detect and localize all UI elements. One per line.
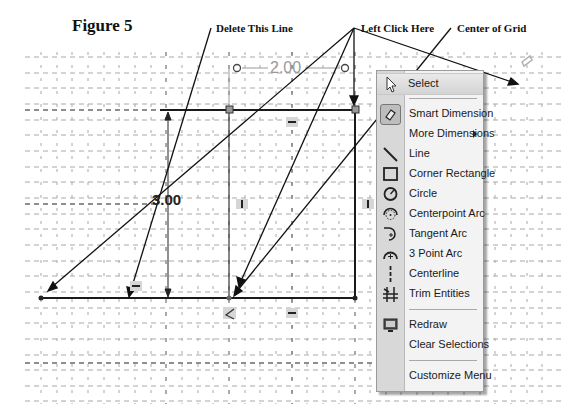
centerpoint-arc-icon bbox=[381, 205, 400, 223]
annotation-delete-line: Delete This Line bbox=[216, 22, 293, 34]
context-menu: Select Smart Dimension More Dimensions L… bbox=[376, 70, 484, 392]
menu-item-clear-selections[interactable]: Clear Selections bbox=[377, 335, 483, 355]
vertical-relation-icon[interactable] bbox=[362, 199, 374, 209]
horizontal-relation-icon[interactable] bbox=[286, 117, 298, 127]
menu-item-centerpoint-arc[interactable]: Centerpoint Arc bbox=[377, 204, 483, 224]
menu-item-line[interactable]: Line bbox=[377, 144, 483, 164]
menu-item-tangent-arc[interactable]: Tangent Arc bbox=[377, 224, 483, 244]
annotation-center-grid: Center of Grid bbox=[457, 22, 526, 34]
menu-item-trim-entities[interactable]: Trim Entities bbox=[377, 284, 483, 304]
redraw-icon bbox=[381, 316, 400, 334]
pointer-arrow-icon bbox=[381, 75, 400, 93]
menu-item-more-dimensions[interactable]: More Dimensions bbox=[377, 124, 483, 144]
menu-item-corner-rectangle[interactable]: Corner Rectangle bbox=[377, 164, 483, 184]
submenu-arrow-icon bbox=[473, 130, 477, 138]
horizontal-relation-icon[interactable] bbox=[130, 281, 142, 291]
menu-item-smart-dimension[interactable]: Smart Dimension bbox=[377, 104, 483, 124]
centerline-icon bbox=[381, 265, 400, 283]
horizontal-relation-icon[interactable] bbox=[286, 308, 298, 318]
menu-item-select[interactable]: Select bbox=[377, 73, 483, 95]
figure-title: Figure 5 bbox=[72, 16, 133, 36]
dimension-2-00[interactable]: 2.00 bbox=[270, 59, 301, 77]
menu-separator bbox=[409, 360, 477, 361]
menu-item-redraw[interactable]: Redraw bbox=[377, 315, 483, 335]
sketch-grid bbox=[25, 52, 565, 404]
menu-item-3-point-arc[interactable]: 3 Point Arc bbox=[377, 244, 483, 264]
smart-dimension-icon bbox=[380, 104, 401, 125]
rectangle-icon bbox=[381, 165, 400, 183]
menu-item-circle[interactable]: Circle bbox=[377, 184, 483, 204]
menu-separator bbox=[409, 309, 477, 310]
three-point-arc-icon bbox=[381, 245, 400, 263]
vertical-relation-icon[interactable] bbox=[236, 199, 248, 209]
trim-entities-icon bbox=[381, 285, 400, 303]
dimension-3-00[interactable]: 3.00 bbox=[152, 191, 181, 208]
line-icon bbox=[381, 145, 400, 163]
annotation-left-click: Left Click Here bbox=[361, 22, 434, 34]
origin-icon bbox=[223, 307, 236, 319]
menu-item-customize-menu[interactable]: Customize Menu bbox=[377, 366, 483, 386]
circle-icon bbox=[381, 185, 400, 203]
tangent-arc-icon bbox=[381, 225, 400, 243]
menu-item-centerline[interactable]: Centerline bbox=[377, 264, 483, 284]
menu-separator bbox=[409, 98, 477, 99]
